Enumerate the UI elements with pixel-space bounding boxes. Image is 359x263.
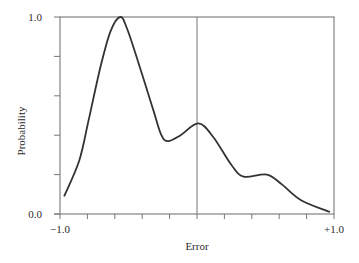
y-tick-label-min: 0.0 bbox=[28, 208, 42, 220]
x-tick-label-min: −1.0 bbox=[50, 223, 70, 235]
x-tick-label-max: +1.0 bbox=[324, 223, 344, 235]
axis-ticks bbox=[54, 17, 334, 219]
chart-canvas: 1.0 0.0 −1.0 +1.0 Error Probability bbox=[0, 0, 359, 263]
x-axis-label: Error bbox=[185, 240, 209, 252]
y-axis-label: Probability bbox=[15, 106, 27, 155]
y-tick-label-max: 1.0 bbox=[28, 11, 42, 23]
